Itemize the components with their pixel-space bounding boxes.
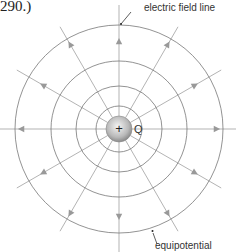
field-line [60, 140, 113, 231]
field-line [60, 27, 113, 118]
caption-fragment: 290.) [0, 0, 31, 15]
field-line-pointer [121, 12, 131, 24]
arrow-icon [116, 38, 122, 44]
field-line [130, 136, 221, 189]
equipotential-pointer-dot [152, 230, 154, 232]
field-line [17, 70, 108, 123]
arrow-icon [116, 214, 122, 220]
equipotential-label: equipotential [155, 240, 212, 251]
charge-label: Q [134, 123, 143, 135]
plus-sign-icon: + [115, 121, 123, 136]
field-line [130, 70, 221, 123]
field-line [126, 140, 179, 231]
arrow-icon [214, 126, 220, 132]
field-line [126, 27, 179, 118]
diagram-svg: + Q electric field line equipotential [0, 0, 236, 252]
field-line-pointer-dot [120, 23, 122, 25]
field-line [17, 136, 108, 189]
arrow-icon [18, 126, 24, 132]
field-line-label: electric field line [144, 2, 216, 13]
electric-field-diagram: 290.) + Q electric field line equipotent… [0, 0, 236, 252]
